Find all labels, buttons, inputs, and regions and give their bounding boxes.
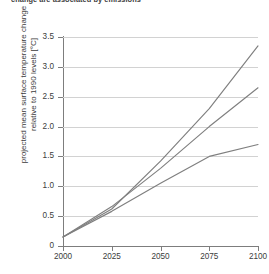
- y-axis-tick-label: 3.0: [43, 63, 54, 71]
- series-line: [63, 144, 258, 237]
- y-axis-tick-label: 1.5: [43, 152, 54, 160]
- x-axis-tick-label: 2000: [54, 253, 72, 261]
- y-axis-tick-mark: [58, 186, 63, 187]
- y-axis-tick-mark: [58, 67, 63, 68]
- series-lines: [0, 0, 269, 274]
- y-axis-tick-label: 1.0: [43, 182, 54, 190]
- y-axis-tick-label: 0: [49, 242, 54, 250]
- x-axis-tick-label: 2050: [151, 253, 169, 261]
- x-axis-tick-mark: [209, 247, 210, 251]
- x-axis-tick-mark: [63, 247, 64, 251]
- series-line: [63, 88, 258, 237]
- x-axis-tick-mark: [258, 247, 259, 251]
- y-axis-tick-label: 2.5: [43, 93, 54, 101]
- y-axis-tick-mark: [58, 156, 63, 157]
- y-axis-tick-mark: [58, 37, 63, 38]
- x-axis-tick-label: 2075: [200, 253, 218, 261]
- y-axis-tick-mark: [58, 97, 63, 98]
- y-axis-tick-label: 3.5: [43, 33, 54, 41]
- x-axis-tick-label: 2025: [103, 253, 121, 261]
- x-axis-tick-mark: [161, 247, 162, 251]
- x-axis-tick-label: 2100: [249, 253, 267, 261]
- x-axis-tick-mark: [112, 247, 113, 251]
- y-axis-tick-mark: [58, 127, 63, 128]
- chart-figure: change are associated by emissions proje…: [0, 0, 269, 274]
- y-axis-tick-label: 2.0: [43, 123, 54, 131]
- y-axis-tick-mark: [58, 216, 63, 217]
- series-line: [63, 46, 258, 237]
- y-axis-tick-label: 0.5: [43, 212, 54, 220]
